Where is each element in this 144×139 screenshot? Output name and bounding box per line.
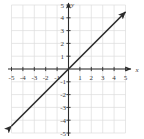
x-tick-label: -3: [31, 74, 37, 82]
coordinate-plane-figure: -5 -4 -3 -2 -1 1 2 3 4 5 5 4 3 2 1 -1 -2…: [0, 0, 144, 139]
x-tick-label: -4: [20, 74, 26, 82]
y-tick-label: -1: [60, 78, 66, 86]
y-tick-label: 3: [61, 27, 65, 35]
graph-canvas: -5 -4 -3 -2 -1 1 2 3 4 5 5 4 3 2 1 -1 -2…: [0, 0, 144, 139]
y-tick-label: -3: [60, 104, 66, 112]
x-tick-label: 5: [124, 74, 128, 82]
x-tick-label: 1: [78, 74, 82, 82]
y-tick-label: 4: [61, 14, 65, 22]
y-tick-label: 1: [61, 53, 65, 61]
x-tick-label: 3: [101, 74, 105, 82]
axes: [8, 3, 131, 136]
y-tick-label: -4: [60, 117, 66, 125]
x-tick-label: 2: [90, 74, 94, 82]
y-tick-label: 2: [61, 40, 65, 48]
x-tick-label: 4: [112, 74, 116, 82]
y-tick-label: 5: [61, 2, 65, 10]
y-tick-label: -5: [60, 130, 66, 138]
x-tick-label: -2: [43, 74, 49, 82]
x-axis-label: x: [134, 66, 139, 74]
x-tick-label: -5: [9, 74, 15, 82]
y-tick-label: -2: [60, 91, 66, 99]
